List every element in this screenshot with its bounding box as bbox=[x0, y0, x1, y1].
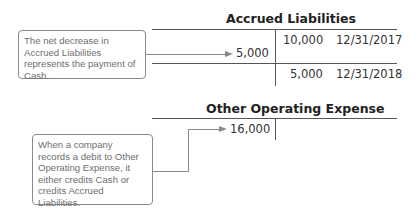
accrued-liabilities-callout: The net decrease in Accrued Liabilities … bbox=[18, 30, 146, 79]
callout-connector bbox=[146, 54, 227, 55]
credit-amount: 10,000 bbox=[283, 33, 323, 47]
balance-date: 12/31/2018 bbox=[336, 67, 402, 81]
credit-date: 12/31/2017 bbox=[336, 33, 402, 47]
balance-amount: 5,000 bbox=[290, 67, 323, 81]
debit-amount: 5,000 bbox=[236, 46, 269, 60]
other-operating-expense-title: Other Operating Expense bbox=[206, 101, 384, 116]
t-account-divider bbox=[275, 29, 276, 86]
callout-connector-top bbox=[188, 129, 221, 130]
debit-amount: 16,000 bbox=[230, 122, 270, 136]
callout-connector-horizontal bbox=[153, 171, 189, 172]
arrow-right-icon bbox=[219, 126, 227, 132]
arrow-right-icon bbox=[225, 51, 233, 57]
t-account-divider bbox=[275, 118, 276, 140]
other-operating-expense-callout: When a company records a debit to Other … bbox=[32, 134, 153, 205]
callout-connector-vertical bbox=[188, 129, 189, 172]
t-account-total-line bbox=[152, 63, 397, 64]
accrued-liabilities-title: Accrued Liabilities bbox=[226, 11, 356, 26]
